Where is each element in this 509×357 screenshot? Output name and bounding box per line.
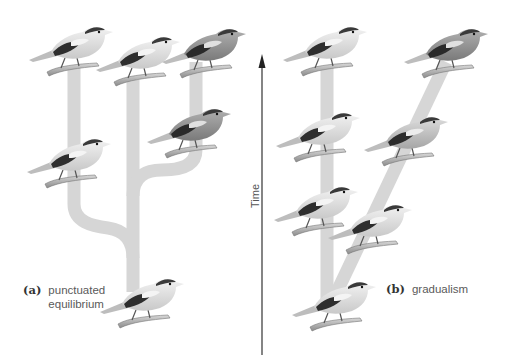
bird-b-diagonal-top bbox=[404, 29, 488, 78]
arrowhead-icon bbox=[259, 54, 266, 68]
time-axis-label: Time bbox=[249, 181, 261, 211]
bird-b-vertical-upper-mid bbox=[276, 113, 360, 162]
bird-b-vertical-lower-mid bbox=[274, 187, 358, 236]
bird-a-bottom-ancestor bbox=[100, 279, 184, 328]
panel-b-title: gradualism bbox=[412, 282, 468, 296]
bird-a-top-right bbox=[162, 29, 246, 78]
panel-a-tag: (a) bbox=[23, 283, 41, 297]
panel-b-branches bbox=[327, 62, 446, 300]
bird-a-mid-right bbox=[147, 109, 231, 158]
bird-b-vertical-top bbox=[283, 27, 367, 76]
panel-a-title-line1: punctuated bbox=[48, 284, 105, 296]
panel-b-label: (b)gradualism bbox=[386, 282, 468, 296]
panel-a-label: (a)punctuatedequilibrium bbox=[23, 283, 105, 311]
diagonal-lineage bbox=[333, 62, 446, 300]
bird-b-diagonal-mid bbox=[364, 117, 448, 166]
panel-b-tag: (b) bbox=[386, 282, 405, 296]
panel-a-title-line2: equilibrium bbox=[48, 298, 104, 310]
